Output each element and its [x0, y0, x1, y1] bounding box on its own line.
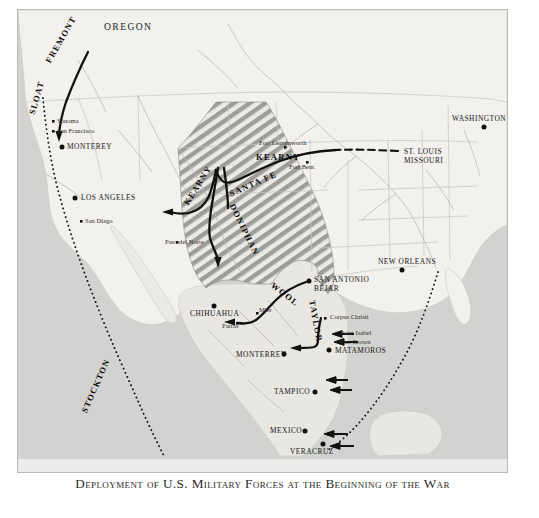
map-canvas: OREGON FREMONT SLOAT STOCKTON KEARNY KEA…: [18, 10, 507, 460]
caption-text: Deployment of U.S. Military Forces at th…: [18, 476, 507, 492]
map-page: OREGON FREMONT SLOAT STOCKTON KEARNY KEA…: [0, 0, 539, 518]
yucatan-peninsula: [369, 411, 442, 456]
map-plate: OREGON FREMONT SLOAT STOCKTON KEARNY KEA…: [17, 9, 508, 473]
caption-band-fill: [18, 459, 507, 472]
map-svg: [18, 10, 507, 460]
